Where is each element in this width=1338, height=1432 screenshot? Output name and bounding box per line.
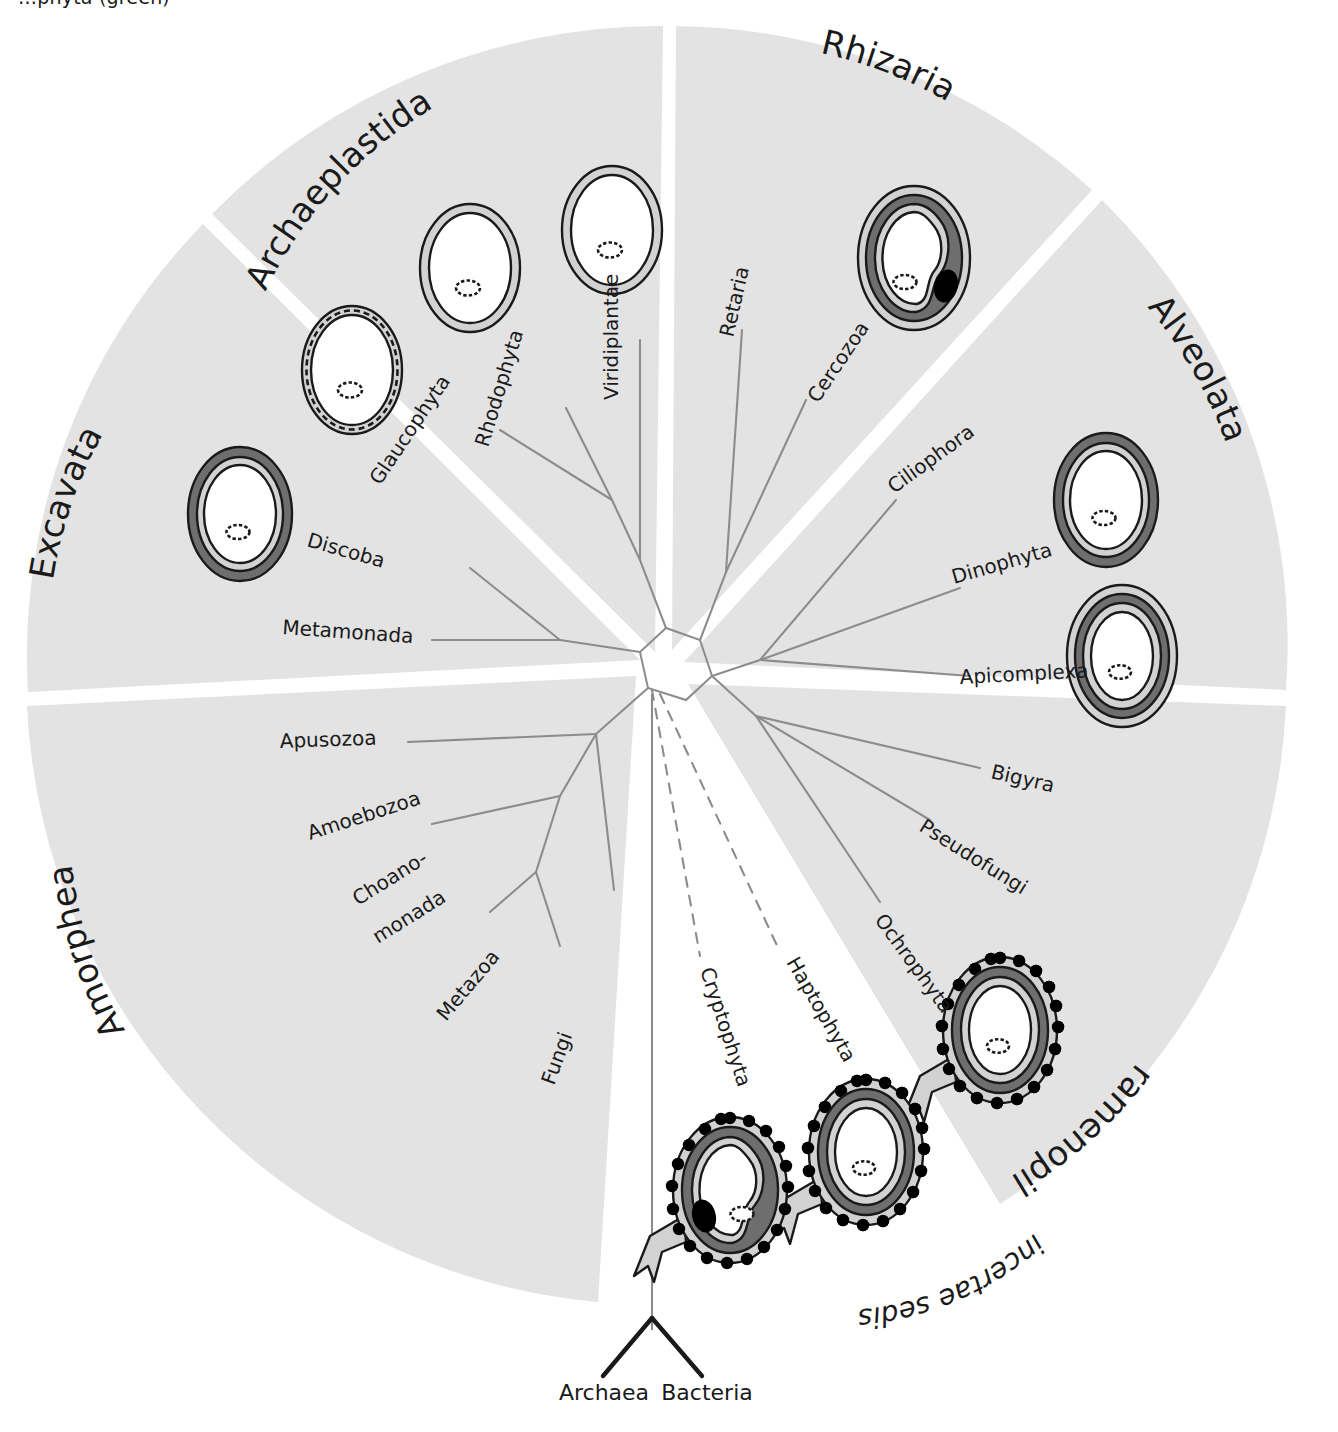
sector-amorphea xyxy=(27,676,636,1302)
glaucophyta-cell xyxy=(302,306,402,434)
discoba-cell xyxy=(188,447,292,581)
haptophyta-cell xyxy=(770,1074,930,1244)
taxon-label-apusozoa: Apusozoa xyxy=(279,726,376,753)
root-label-archaea: Archaea xyxy=(559,1380,649,1405)
phylogenetic-tree-svg: Archaeplastida Rhizaria Alveolata Strame… xyxy=(0,0,1338,1432)
root-labels: Archaea Bacteria xyxy=(559,1380,753,1405)
rhodophyta-cell xyxy=(420,204,520,332)
cercozoa-cell xyxy=(858,186,970,330)
dinophyta-cell xyxy=(1054,433,1158,567)
apicomplexa-cell xyxy=(1067,585,1177,727)
taxon-label-viridiplantae: Viridiplantae xyxy=(599,274,623,400)
cryptophyta-cell xyxy=(634,1112,794,1282)
taxon-label-cryptophyta: Cryptophyta xyxy=(695,964,756,1089)
root-label-bacteria: Bacteria xyxy=(661,1380,752,1405)
figure-canvas: …phyta (green) xyxy=(0,0,1338,1432)
supergroup-label-incertae-sedis: incertae sedis xyxy=(856,1228,1051,1335)
taxon-label-haptophyta: Haptophyta xyxy=(782,953,861,1067)
sector-stramenopiles xyxy=(688,684,1286,1204)
